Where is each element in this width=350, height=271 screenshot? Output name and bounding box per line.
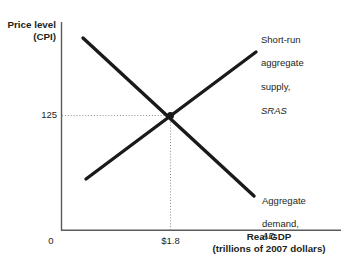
y-axis-title: Price level (CPI) — [0, 19, 56, 43]
equilibrium-point — [167, 112, 174, 119]
ad-abbreviation: AD — [262, 230, 275, 241]
ad-sras-diagram: Price level (CPI) 125 0 $1.8 Real GDP (t… — [0, 0, 350, 271]
sras-abbreviation: SRAS — [261, 105, 287, 116]
x-tick-label-origin: 0 — [40, 235, 62, 247]
sras-label-line1: Short-run — [261, 34, 301, 45]
sras-label-line2: aggregate — [261, 57, 304, 68]
ad-label-line2: demand, — [262, 218, 299, 229]
aggregate-demand-curve-label: Aggregate demand, AD — [262, 183, 350, 242]
sras-label-line3: supply, — [261, 81, 290, 92]
y-tick-label-125: 125 — [20, 109, 57, 121]
x-tick-label-equilibrium: $1.8 — [148, 235, 193, 247]
ad-label-line1: Aggregate — [262, 195, 306, 206]
sras-curve-label: Short-run aggregate supply, SRAS — [261, 22, 349, 116]
